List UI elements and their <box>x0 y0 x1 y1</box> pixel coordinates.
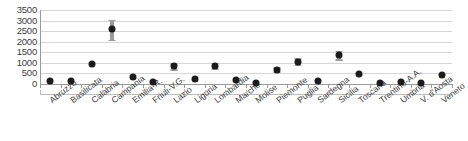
x-tick <box>225 84 226 88</box>
data-point <box>150 79 157 86</box>
x-axis-secondary-line <box>40 94 452 95</box>
x-tick <box>40 84 41 88</box>
data-point <box>376 79 383 86</box>
chart-container: 3500300025002000150010005000 AbruzzoBasi… <box>0 0 468 141</box>
x-axis-label: Puglia <box>296 98 301 105</box>
x-tick <box>370 84 371 88</box>
x-tick-secondary <box>205 90 206 94</box>
error-bar-cap <box>109 20 116 22</box>
data-point <box>273 66 280 73</box>
x-tick-secondary <box>370 90 371 94</box>
data-point <box>109 26 116 33</box>
x-axis-label: Abruzzo <box>48 98 53 105</box>
gridline <box>40 31 452 32</box>
x-tick-secondary <box>164 90 165 94</box>
gridline <box>40 73 452 74</box>
x-tick-secondary <box>143 90 144 94</box>
x-tick <box>308 84 309 88</box>
x-axis-label: Trentino-A.A. <box>378 98 383 105</box>
x-tick <box>205 84 206 88</box>
x-axis-label: Toscana <box>357 98 362 105</box>
x-axis-label: Calabria <box>90 98 95 105</box>
x-tick-secondary <box>102 90 103 94</box>
gridline <box>40 42 452 43</box>
x-tick <box>61 84 62 88</box>
data-point <box>356 71 363 78</box>
x-axis-label: Veneto <box>440 98 445 105</box>
data-point <box>294 58 301 65</box>
data-point <box>191 75 198 82</box>
x-tick-secondary <box>267 90 268 94</box>
x-tick <box>267 84 268 88</box>
x-axis-label: Basilicata <box>69 98 74 105</box>
data-point <box>212 62 219 69</box>
x-tick <box>164 84 165 88</box>
x-tick <box>122 84 123 88</box>
gridline <box>40 10 452 11</box>
data-point <box>129 73 136 80</box>
x-axis-label: Marche <box>234 98 239 105</box>
x-tick-secondary <box>184 90 185 94</box>
x-tick-secondary <box>390 90 391 94</box>
x-tick-secondary <box>308 90 309 94</box>
x-tick <box>411 84 412 88</box>
data-point <box>315 78 322 85</box>
x-tick <box>81 84 82 88</box>
x-tick <box>143 84 144 88</box>
data-point <box>88 60 95 67</box>
y-tick-label: 0 <box>32 79 37 89</box>
x-axis-label: Campania <box>110 98 115 105</box>
x-axis-label: Sicilia <box>337 98 342 105</box>
x-axis-label: Umbria <box>399 98 404 105</box>
x-tick <box>349 84 350 88</box>
x-tick-secondary <box>122 90 123 94</box>
x-axis-label: Emilia-R. <box>131 98 136 105</box>
x-axis-label: Molise <box>254 98 259 105</box>
x-tick <box>287 84 288 88</box>
x-tick <box>246 84 247 88</box>
x-axis-label: Piemonte <box>275 98 280 105</box>
y-tick-label: 2000 <box>17 37 37 47</box>
x-tick <box>102 84 103 88</box>
x-tick <box>452 84 453 88</box>
x-tick-secondary <box>349 90 350 94</box>
data-point <box>438 72 445 79</box>
y-tick-label: 3000 <box>17 16 37 26</box>
plot-area <box>40 10 452 84</box>
x-tick-secondary <box>431 90 432 94</box>
x-tick-secondary <box>61 90 62 94</box>
data-point <box>397 79 404 86</box>
data-point <box>170 63 177 70</box>
x-tick-secondary <box>40 90 41 94</box>
data-point <box>335 52 342 59</box>
x-axis-label: Lombardia <box>213 98 218 105</box>
data-point <box>418 80 425 87</box>
y-tick-label: 2500 <box>17 26 37 36</box>
x-axis-label: Liguria <box>193 98 198 105</box>
x-tick <box>328 84 329 88</box>
y-axis-line <box>40 10 41 85</box>
data-point <box>232 76 239 83</box>
data-point <box>67 78 74 85</box>
x-tick-secondary <box>411 90 412 94</box>
x-axis-label: Sardegna <box>316 98 321 105</box>
x-tick <box>184 84 185 88</box>
error-bar-cap <box>335 59 342 61</box>
x-axis-label: Lazio <box>172 98 177 105</box>
y-tick-label: 1500 <box>17 48 37 58</box>
data-point <box>253 79 260 86</box>
data-point <box>47 77 54 84</box>
x-tick <box>390 84 391 88</box>
y-tick-label: 1000 <box>17 58 37 68</box>
y-tick-label: 3500 <box>17 5 37 15</box>
y-axis-labels: 3500300025002000150010005000 <box>0 0 37 95</box>
x-tick-secondary <box>246 90 247 94</box>
x-axis-label: V. d'Aosta <box>419 98 424 105</box>
x-tick-secondary <box>328 90 329 94</box>
error-bar-cap <box>109 40 116 42</box>
gridline <box>40 52 452 53</box>
gridline <box>40 63 452 64</box>
x-tick-secondary <box>287 90 288 94</box>
x-axis-label: Friuli-V.G. <box>151 98 156 105</box>
x-tick-secondary <box>81 90 82 94</box>
